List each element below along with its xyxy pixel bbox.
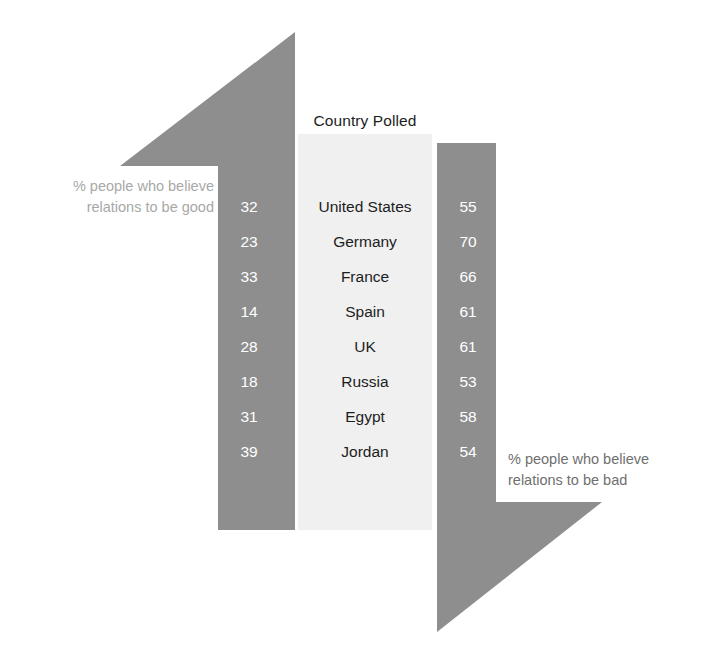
legend-label-bad-line2: relations to be bad [508,472,627,488]
value-good: 39 [218,434,280,469]
table-row: 18 Russia 53 [0,364,725,399]
value-good: 23 [218,224,280,259]
country-name: United States [298,189,432,224]
table-row: 28 UK 61 [0,329,725,364]
value-bad: 66 [440,259,496,294]
value-good: 18 [218,364,280,399]
country-name: Egypt [298,399,432,434]
value-good: 31 [218,399,280,434]
value-bad: 70 [440,224,496,259]
country-name: France [298,259,432,294]
value-bad: 55 [440,189,496,224]
country-column-header: Country Polled [298,112,432,130]
value-bad: 61 [440,329,496,364]
country-name: Spain [298,294,432,329]
value-good: 28 [218,329,280,364]
table-row: 23 Germany 70 [0,224,725,259]
value-good: 33 [218,259,280,294]
country-name: Russia [298,364,432,399]
value-bad: 61 [440,294,496,329]
table-row: 39 Jordan 54 [0,434,725,469]
table-row: 33 France 66 [0,259,725,294]
country-name: Jordan [298,434,432,469]
table-row: 31 Egypt 58 [0,399,725,434]
value-bad: 54 [440,434,496,469]
value-bad: 58 [440,399,496,434]
table-row: 14 Spain 61 [0,294,725,329]
table-row: 32 United States 55 [0,189,725,224]
value-good: 14 [218,294,280,329]
two-way-arrow-infographic: Country Polled % people who believe rela… [0,0,725,660]
country-name: UK [298,329,432,364]
country-name: Germany [298,224,432,259]
value-good: 32 [218,189,280,224]
value-bad: 53 [440,364,496,399]
